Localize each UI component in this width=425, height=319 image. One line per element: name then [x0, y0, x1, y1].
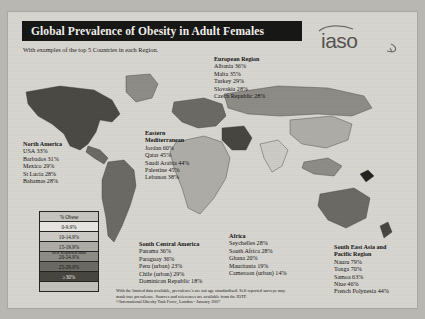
callout-africa-entry: Ghana 20% — [229, 255, 287, 262]
callout-eastern-mediterranean-heading: Eastern — [145, 130, 189, 137]
callout-european-region: European Region Albania 36% Malta 35% Tu… — [214, 56, 265, 100]
callout-south-central-america-entry: Peru (urban) 23% — [139, 263, 202, 270]
callout-south-east-asia-pacific-entry: Nauru 79% — [334, 259, 389, 266]
callout-south-central-america-entry: Paraguay 36% — [139, 256, 202, 263]
callout-south-east-asia-pacific-entry: Tonga 70% — [334, 266, 389, 273]
callout-africa: Africa Seychelles 28% South Africa 28% G… — [229, 233, 287, 277]
iaso-logo: iaso — [313, 22, 399, 56]
poster: Global Prevalence of Obesity in Adult Fe… — [8, 12, 417, 308]
callout-european-region-entry: Slovakia 28% — [214, 86, 265, 93]
callout-south-east-asia-pacific-heading-2: Pacific Region — [334, 251, 389, 258]
footnote-line-3: ©International Obesity Task Force, Londo… — [116, 299, 316, 305]
page-title: Global Prevalence of Obesity in Adult Fe… — [22, 21, 302, 41]
callout-european-region-entry: Albania 36% — [214, 63, 265, 70]
legend-self-reported-row: Self Reported data — [40, 282, 98, 292]
callout-european-region-entry: Malta 35% — [214, 71, 265, 78]
iaso-logo-mark: iaso — [313, 22, 399, 56]
callout-eastern-mediterranean-entry: Saudi Arabia 44% — [145, 160, 189, 167]
callout-eastern-mediterranean: Eastern Mediterranean Jordan 60% Qatar 4… — [145, 130, 189, 182]
callout-european-region-heading: European Region — [214, 56, 265, 63]
callout-south-central-america-entry: Panama 36% — [139, 248, 202, 255]
callout-south-central-america-entry: Chile (urban) 29% — [139, 271, 202, 278]
callout-eastern-mediterranean-entry: Jordan 60% — [145, 145, 189, 152]
subtitle: With examples of the top 5 Countries in … — [23, 46, 188, 54]
callout-eastern-mediterranean-entry: Lebanon 38% — [145, 174, 189, 181]
callout-africa-entry: Cameroon (urban) 14% — [229, 270, 287, 277]
callout-south-east-asia-pacific-entry: French Polynesia 44% — [334, 288, 389, 295]
callout-european-region-entry: Turkey 29% — [214, 78, 265, 85]
callout-eastern-mediterranean-heading-2: Mediterranean — [145, 137, 189, 144]
callout-africa-entry: Mauritania 19% — [229, 263, 287, 270]
callout-south-central-america: South Central America Panama 36% Paragua… — [139, 241, 202, 285]
callout-south-central-america-heading: South Central America — [139, 241, 202, 248]
callout-north-america: North America USA 33% Barbados 31% Mexic… — [23, 141, 62, 185]
callout-north-america-entry: Bahamas 28% — [23, 178, 62, 185]
callout-south-east-asia-pacific-entry: Niue 46% — [334, 281, 389, 288]
callout-north-america-entry: USA 33% — [23, 148, 62, 155]
map-legend: % Obese 0-9.9% 10-14.9% 15-19.9% 20-24.9… — [39, 211, 99, 292]
legend-self-reported-label: Self Reported data — [40, 212, 98, 292]
callout-africa-heading: Africa — [229, 233, 287, 240]
svg-text:iaso: iaso — [321, 29, 358, 52]
callout-eastern-mediterranean-entry: Qatar 45% — [145, 152, 189, 159]
callout-africa-entry: Seychelles 28% — [229, 240, 287, 247]
callout-south-central-america-entry: Dominican Republic 18% — [139, 278, 202, 285]
callout-north-america-heading: North America — [23, 141, 62, 148]
callout-european-region-entry: Czech Republic 28% — [214, 93, 265, 100]
callout-north-america-entry: Barbados 31% — [23, 156, 62, 163]
callout-south-east-asia-pacific: South East Asia and Pacific Region Nauru… — [334, 244, 389, 296]
page-title-text: Global Prevalence of Obesity in Adult Fe… — [22, 25, 264, 37]
callout-north-america-entry: St Lucia 28% — [23, 171, 62, 178]
callout-south-east-asia-pacific-entry: Samoa 63% — [334, 274, 389, 281]
callout-africa-entry: South Africa 28% — [229, 248, 287, 255]
callout-north-america-entry: Mexico 29% — [23, 163, 62, 170]
callout-eastern-mediterranean-entry: Palestine 45% — [145, 167, 189, 174]
callout-south-east-asia-pacific-heading: South East Asia and — [334, 244, 389, 251]
footnote: With the limited data available, prevale… — [116, 288, 316, 305]
